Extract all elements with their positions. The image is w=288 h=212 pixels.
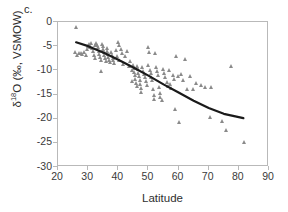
scatter-point bbox=[156, 73, 160, 77]
scatter-point bbox=[121, 62, 125, 66]
scatter-point bbox=[152, 97, 156, 101]
y-axis-title-delta: δ bbox=[11, 101, 23, 107]
scatter-point bbox=[220, 119, 224, 123]
y-axis-title: δ18O (‰, VSMOW) bbox=[9, 0, 23, 129]
x-tick-label: 60 bbox=[163, 171, 193, 182]
scatter-point bbox=[145, 83, 149, 87]
x-tick-label: 90 bbox=[253, 171, 283, 182]
x-tick-label: 50 bbox=[132, 171, 162, 182]
x-tick-label: 30 bbox=[72, 171, 102, 182]
scatter-point bbox=[183, 57, 187, 61]
scatter-point bbox=[209, 85, 213, 89]
y-tick-label: -15 bbox=[26, 88, 52, 98]
scatter-point bbox=[99, 69, 103, 73]
x-tick-label: 80 bbox=[223, 171, 253, 182]
scatter-point bbox=[147, 50, 151, 54]
scatter-point bbox=[173, 107, 177, 111]
scatter-point bbox=[179, 72, 183, 76]
scatter-point bbox=[153, 51, 157, 55]
y-tick-label: -30 bbox=[26, 161, 52, 171]
scatter-point bbox=[139, 86, 143, 90]
x-tick-label: 40 bbox=[102, 171, 132, 182]
y-tick-label: -10 bbox=[26, 64, 52, 74]
scatter-point bbox=[84, 53, 88, 57]
y-axis-title-superscript: 18 bbox=[9, 93, 18, 101]
scatter-point bbox=[160, 98, 164, 102]
scatter-point bbox=[150, 78, 154, 82]
scatter-point bbox=[114, 48, 118, 52]
scatter-point bbox=[181, 78, 185, 82]
scatter-point bbox=[125, 49, 129, 53]
scatter-point bbox=[191, 87, 195, 91]
scatter-point bbox=[194, 81, 198, 85]
scatter-point bbox=[112, 61, 116, 65]
scatter-point bbox=[93, 56, 97, 60]
scatter-point bbox=[99, 58, 103, 62]
scatter-point bbox=[208, 115, 212, 119]
plot-area bbox=[57, 21, 268, 166]
y-tick-label: 0 bbox=[26, 16, 52, 26]
scatter-point bbox=[203, 85, 207, 89]
y-tick-label: -5 bbox=[26, 40, 52, 50]
scatter-point bbox=[157, 85, 161, 89]
y-tick-label: -25 bbox=[26, 136, 52, 146]
scatter-point bbox=[151, 87, 155, 91]
scatter-point bbox=[224, 128, 228, 132]
scatter-point bbox=[177, 120, 181, 124]
x-tick-label: 70 bbox=[193, 171, 223, 182]
y-axis-title-rest: O (‰, VSMOW) bbox=[11, 10, 23, 92]
scatter-point bbox=[229, 64, 233, 68]
scatter-point bbox=[199, 83, 203, 87]
x-tick-label: 20 bbox=[42, 171, 72, 182]
scatter-point bbox=[139, 90, 143, 94]
scatter-point bbox=[123, 54, 127, 58]
y-tick-label: -20 bbox=[26, 112, 52, 122]
figure-panel: c. δ18O (‰, VSMOW) 0-5-10-15-20-25-30 20… bbox=[0, 0, 288, 212]
scatter-point bbox=[174, 54, 178, 58]
scatter-point bbox=[167, 68, 171, 72]
scatter-point bbox=[185, 87, 189, 91]
panel-label: c. bbox=[24, 3, 33, 15]
scatter-point bbox=[74, 25, 78, 29]
scatter-point bbox=[188, 74, 192, 78]
x-axis-title: Latitude bbox=[57, 192, 268, 204]
scatter-point bbox=[242, 140, 246, 144]
scatter-point bbox=[169, 86, 173, 90]
